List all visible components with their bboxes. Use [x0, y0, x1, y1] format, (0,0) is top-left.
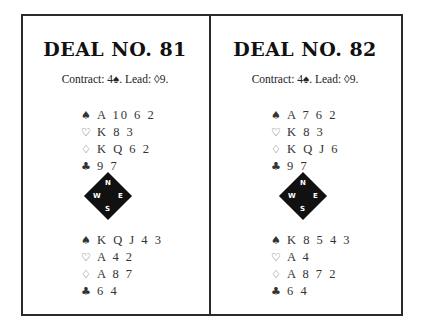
north-spades: ♠A 7 6 2	[271, 107, 399, 124]
south-hand: ♠K 8 5 4 3 ♡A 4 ♢A 8 7 2 ♣6 4	[211, 232, 399, 300]
north-hearts: ♡K 8 3	[81, 124, 209, 141]
heart-icon: ♡	[81, 249, 97, 266]
spade-icon: ♠	[271, 107, 287, 124]
deal-panel-82: DEAL NO. 82 Contract: 4♠. Lead: ◊9. ♠A 7…	[211, 14, 399, 312]
south-spades: ♠K Q J 4 3	[81, 232, 209, 249]
spade-icon: ♠	[81, 107, 97, 124]
spade-icon: ♠	[271, 232, 287, 249]
contract-line: Contract: 4♠. Lead: ◊9.	[21, 73, 209, 85]
south-clubs: ♣6 4	[81, 283, 209, 300]
compass-icon: N W E S	[279, 172, 327, 220]
deal-title: DEAL NO. 82	[211, 38, 399, 60]
south-hand: ♠K Q J 4 3 ♡A 4 2 ♢A 8 7 ♣6 4	[21, 232, 209, 300]
diamond-icon: ♢	[271, 141, 287, 158]
deal-title: DEAL NO. 81	[21, 38, 209, 60]
south-diamonds: ♢A 8 7	[81, 266, 209, 283]
deal-panel-81: DEAL NO. 81 Contract: 4♠. Lead: ◊9. ♠A 1…	[21, 14, 209, 312]
club-icon: ♣	[81, 283, 97, 300]
south-hearts: ♡A 4 2	[81, 249, 209, 266]
south-clubs: ♣6 4	[271, 283, 399, 300]
compass-icon: N W E S	[84, 172, 132, 220]
contract-line: Contract: 4♠. Lead: ◊9.	[211, 73, 399, 85]
north-hearts: ♡K 8 3	[271, 124, 399, 141]
diamond-icon: ♢	[271, 266, 287, 283]
south-spades: ♠K 8 5 4 3	[271, 232, 399, 249]
north-spades: ♠A 10 6 2	[81, 107, 209, 124]
north-hand: ♠A 7 6 2 ♡K 8 3 ♢K Q J 6 ♣9 7	[211, 107, 399, 175]
north-hand: ♠A 10 6 2 ♡K 8 3 ♢K Q 6 2 ♣9 7	[21, 107, 209, 175]
heart-icon: ♡	[81, 124, 97, 141]
south-hearts: ♡A 4	[271, 249, 399, 266]
diamond-icon: ♢	[81, 266, 97, 283]
south-diamonds: ♢A 8 7 2	[271, 266, 399, 283]
heart-icon: ♡	[271, 124, 287, 141]
diamond-icon: ♢	[81, 141, 97, 158]
heart-icon: ♡	[271, 249, 287, 266]
spade-icon: ♠	[81, 232, 97, 249]
north-diamonds: ♢K Q 6 2	[81, 141, 209, 158]
club-icon: ♣	[271, 283, 287, 300]
north-diamonds: ♢K Q J 6	[271, 141, 399, 158]
